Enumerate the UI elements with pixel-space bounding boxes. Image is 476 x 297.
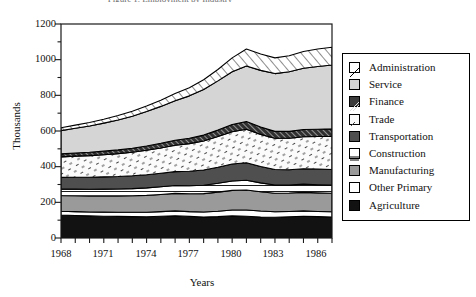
legend-swatch-icon (349, 79, 360, 90)
legend-item[interactable]: Construction (349, 145, 465, 162)
figure-canvas: Figure 1. Employment by Industry Thousan… (0, 0, 476, 297)
legend-item[interactable]: Other Primary (349, 179, 465, 196)
area-layers (61, 47, 332, 238)
legend-swatch-icon (349, 131, 360, 142)
legend-label: Manufacturing (369, 165, 434, 176)
legend-swatch-icon (349, 62, 360, 73)
legend-item[interactable]: Finance (349, 93, 465, 110)
legend-item[interactable]: Administration (349, 59, 465, 76)
legend-item[interactable]: Trade (349, 111, 465, 128)
legend-label: Construction (369, 148, 426, 159)
legend: AdministrationServiceFinanceTradeTranspo… (342, 53, 470, 221)
legend-swatch-icon (349, 96, 360, 107)
legend-label: Other Primary (369, 182, 432, 193)
legend-label: Administration (369, 62, 436, 73)
legend-label: Agriculture (369, 200, 420, 211)
legend-label: Finance (369, 96, 404, 107)
legend-swatch-icon (349, 114, 360, 125)
legend-item[interactable]: Transportation (349, 128, 465, 145)
legend-swatch-icon (349, 165, 360, 176)
legend-swatch-icon (349, 182, 360, 193)
legend-item[interactable]: Manufacturing (349, 162, 465, 179)
legend-swatch-icon (349, 148, 360, 159)
legend-label: Trade (369, 114, 394, 125)
legend-item[interactable]: Service (349, 76, 465, 93)
legend-item[interactable]: Agriculture (349, 197, 465, 214)
legend-label: Transportation (369, 131, 433, 142)
area-band-agriculture (61, 215, 332, 238)
legend-swatch-icon (349, 200, 360, 211)
legend-label: Service (369, 79, 402, 90)
